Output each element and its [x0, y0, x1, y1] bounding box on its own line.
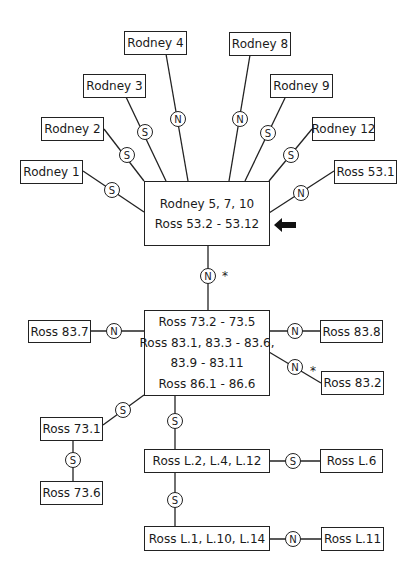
- asterisk-marker-83-2: *: [310, 364, 316, 378]
- node-n-central-group2: N: [200, 268, 216, 284]
- central-line-1: Rodney 5, 7, 10: [160, 194, 254, 214]
- box-ross-l11: Ross L.11: [321, 527, 384, 551]
- node-s-ross-73-6: S: [65, 452, 81, 468]
- box-rodney-8: Rodney 8: [229, 32, 291, 56]
- node-s-l2-l1: S: [167, 492, 183, 508]
- node-n-ross-83-7: N: [106, 323, 122, 339]
- group2-line-4: Ross 86.1 - 86.6: [159, 374, 256, 395]
- central-line-2: Ross 53.2 - 53.12: [155, 214, 260, 234]
- box-ross-l1-l10-l14: Ross L.1, L.10, L.14: [144, 526, 270, 551]
- box-ross-l6: Ross L.6: [320, 449, 383, 473]
- node-s-rodney-12: S: [283, 147, 299, 163]
- group2-line-3: 83.9 - 83.11: [170, 353, 243, 374]
- node-n-ross-53-1: N: [293, 185, 309, 201]
- box-rodney-9: Rodney 9: [270, 74, 333, 98]
- node-s-rodney-2: S: [119, 147, 135, 163]
- node-s-rodney-1: S: [104, 182, 120, 198]
- box-ross-83-2: Ross 83.2: [321, 371, 384, 395]
- box-central-group: Rodney 5, 7, 10 Ross 53.2 - 53.12: [144, 181, 270, 246]
- node-n-ross-83-8: N: [287, 323, 303, 339]
- node-s-rodney-3: S: [137, 124, 153, 140]
- node-s-ross-l6: S: [285, 453, 301, 469]
- node-s-group2-l2: S: [167, 413, 183, 429]
- box-ross-83-8: Ross 83.8: [320, 320, 383, 343]
- node-n-rodney-8: N: [232, 111, 248, 127]
- box-rodney-1: Rodney 1: [20, 160, 83, 184]
- box-ross-73-1: Ross 73.1: [40, 417, 103, 441]
- box-ross-l2-l4-l12: Ross L.2, L.4, L.12: [144, 449, 270, 473]
- group2-line-2: Ross 83.1, 83.3 - 83.6,: [139, 333, 274, 354]
- box-group-2: Ross 73.2 - 73.5 Ross 83.1, 83.3 - 83.6,…: [144, 310, 270, 396]
- box-ross-83-7: Ross 83.7: [28, 320, 91, 343]
- box-rodney-2: Rodney 2: [41, 117, 104, 141]
- box-rodney-12: Rodney 12: [312, 117, 375, 141]
- asterisk-marker: *: [222, 269, 228, 283]
- arrow-left-icon: [274, 217, 298, 233]
- node-n-ross-83-2: N: [287, 359, 303, 375]
- box-rodney-3: Rodney 3: [83, 74, 146, 98]
- box-ross-73-6: Ross 73.6: [40, 481, 103, 505]
- box-rodney-4: Rodney 4: [124, 31, 187, 55]
- node-s-rodney-9: S: [260, 125, 276, 141]
- group2-line-1: Ross 73.2 - 73.5: [159, 312, 256, 333]
- box-ross-53-1: Ross 53.1: [334, 160, 397, 184]
- node-n-ross-l11: N: [285, 531, 301, 547]
- node-s-ross-73-1: S: [115, 402, 131, 418]
- node-n-rodney-4: N: [170, 111, 186, 127]
